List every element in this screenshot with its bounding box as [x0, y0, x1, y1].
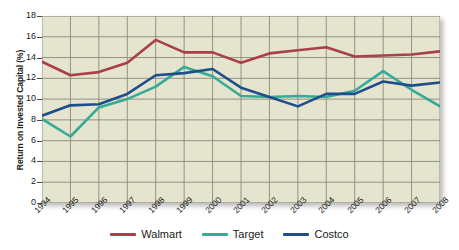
y-tick-label: 16 [0, 31, 36, 41]
legend-label: Costco [314, 228, 348, 240]
plot-svg [42, 16, 440, 203]
y-tick-label: 2 [0, 176, 36, 186]
legend-item-target[interactable]: Target [202, 228, 264, 240]
legend-item-costco[interactable]: Costco [283, 228, 348, 240]
y-tick-label: 6 [0, 135, 36, 145]
legend-swatch-icon [110, 233, 136, 236]
y-tick-label: 14 [0, 52, 36, 62]
plot-area [42, 16, 440, 203]
y-tick-label: 12 [0, 72, 36, 82]
legend-label: Walmart [141, 228, 182, 240]
legend-item-walmart[interactable]: Walmart [110, 228, 182, 240]
legend-swatch-icon [202, 233, 228, 236]
y-tick-label: 0 [0, 197, 36, 207]
chart-legend: WalmartTargetCostco [0, 228, 459, 240]
y-tick-label: 10 [0, 93, 36, 103]
y-tick-label: 4 [0, 155, 36, 165]
y-tick-label: 18 [0, 10, 36, 20]
y-tick-label: 8 [0, 114, 36, 124]
legend-label: Target [233, 228, 264, 240]
roic-line-chart: Return on Invested Capital (%) 181614121… [0, 0, 459, 250]
plot-inner [42, 16, 440, 203]
legend-swatch-icon [283, 233, 309, 236]
